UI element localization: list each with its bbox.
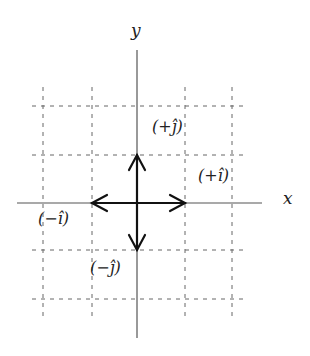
plus-j-label: (+ĵ) bbox=[152, 119, 183, 135]
axes bbox=[17, 50, 262, 338]
y-axis-label: y bbox=[131, 22, 141, 39]
diagram-svg bbox=[0, 0, 310, 356]
unit-vector-diagram: y x (+ĵ) (+î) (−î) (−ĵ) bbox=[0, 0, 310, 356]
plus-i-label: (+î) bbox=[198, 168, 229, 184]
unit-vectors bbox=[92, 155, 185, 250]
minus-j-label: (−ĵ) bbox=[90, 260, 121, 276]
minus-i-label: (−î) bbox=[38, 211, 69, 227]
x-axis-label: x bbox=[283, 190, 293, 207]
grid bbox=[32, 87, 248, 316]
